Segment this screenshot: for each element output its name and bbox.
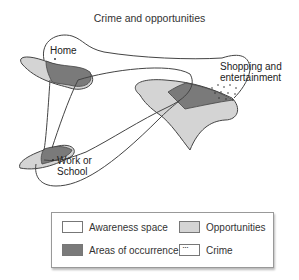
shopping-label-line2: entertainment	[220, 72, 282, 83]
legend-label: Opportunities	[206, 222, 265, 233]
shopping-label: Shopping and entertainment	[220, 61, 282, 83]
legend-item-awareness: Awareness space	[62, 221, 168, 233]
legend-label: Crime	[206, 245, 233, 256]
home-label: Home	[50, 45, 77, 56]
work-label-line1: Work or	[57, 155, 92, 166]
opportunities-swatch-icon	[179, 221, 200, 233]
home-opportunity-area	[21, 57, 93, 89]
legend-label: Awareness space	[89, 222, 168, 233]
home-point	[54, 58, 56, 60]
work-label: Work or School	[57, 155, 92, 177]
occurrence-swatch-icon	[62, 244, 83, 256]
legend-label: Areas of occurrence	[89, 245, 179, 256]
legend-item-occurrence: Areas of occurrence	[62, 244, 179, 256]
shopping-label-line1: Shopping and	[220, 61, 282, 72]
awareness-space-map	[0, 0, 299, 210]
legend-item-opportunities: Opportunities	[179, 221, 265, 233]
work-label-line2: School	[57, 166, 92, 177]
awareness-swatch-icon	[62, 221, 83, 233]
legend-item-crime: Crime	[179, 244, 233, 256]
crime-dots-swatch-icon	[179, 244, 200, 256]
shopping-opportunity-area	[135, 80, 237, 150]
legend: Awareness space Opportunities Areas of o…	[51, 212, 274, 268]
work-point	[52, 159, 54, 161]
